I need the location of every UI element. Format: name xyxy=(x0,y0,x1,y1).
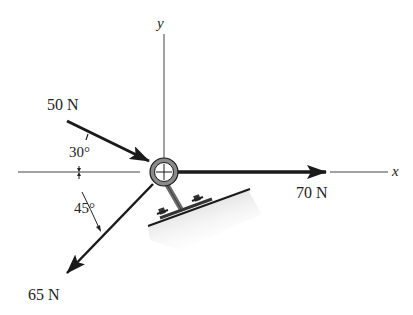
x-axis-label: x xyxy=(391,163,399,179)
force-70n-label: 70 N xyxy=(296,184,328,201)
bolt-icon xyxy=(157,207,168,215)
angle-45-label: 45° xyxy=(74,200,95,216)
ring-eyelet xyxy=(150,158,178,186)
support-bracket xyxy=(148,183,262,250)
angle-30: 30° xyxy=(69,134,90,172)
angle-45: 45° xyxy=(74,172,101,232)
force-50n-label: 50 N xyxy=(47,96,79,113)
force-diagram: y x xyxy=(0,0,413,315)
force-50n: 50 N xyxy=(47,96,149,161)
bolt-icon xyxy=(192,194,203,202)
y-axis-label: y xyxy=(155,15,164,31)
y-axis: y xyxy=(155,15,164,160)
force-65n-label: 65 N xyxy=(28,286,60,303)
angle-30-label: 30° xyxy=(69,144,90,160)
